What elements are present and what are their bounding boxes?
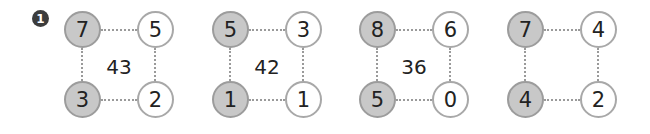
- circle-top-right: 4: [580, 11, 617, 48]
- circle-top-left: 5: [212, 11, 249, 48]
- number-square-4: 7 4 4 2: [507, 0, 627, 134]
- circle-bottom-right: 1: [285, 81, 322, 118]
- circle-top-left: 8: [359, 11, 396, 48]
- circle-top-left: 7: [64, 11, 101, 48]
- circle-bottom-right: 2: [137, 81, 174, 118]
- circle-bottom-left: 5: [359, 81, 396, 118]
- dotted-connector: [396, 29, 432, 31]
- dotted-connector: [396, 99, 432, 101]
- dotted-connector: [154, 48, 156, 81]
- dotted-connector: [101, 99, 137, 101]
- number-square-2: 5 3 1 1 42: [212, 0, 332, 134]
- circle-bottom-left: 1: [212, 81, 249, 118]
- circle-bottom-right: 0: [432, 81, 469, 118]
- dotted-connector: [302, 48, 304, 81]
- number-square-3: 8 6 5 0 36: [359, 0, 479, 134]
- dotted-connector: [524, 48, 526, 81]
- center-number: 36: [396, 55, 432, 79]
- center-number: 43: [101, 55, 137, 79]
- dotted-connector: [249, 29, 285, 31]
- dotted-connector: [229, 48, 231, 81]
- dotted-connector: [249, 99, 285, 101]
- problem-number-badge: 1: [32, 10, 49, 27]
- circle-top-right: 5: [137, 11, 174, 48]
- number-square-1: 7 5 3 2 43: [64, 0, 184, 134]
- dotted-connector: [597, 48, 599, 81]
- dotted-connector: [449, 48, 451, 81]
- circle-bottom-left: 3: [64, 81, 101, 118]
- dotted-connector: [101, 29, 137, 31]
- dotted-connector: [376, 48, 378, 81]
- dotted-connector: [544, 29, 580, 31]
- circle-bottom-right: 2: [580, 81, 617, 118]
- dotted-connector: [544, 99, 580, 101]
- circle-bottom-left: 4: [507, 81, 544, 118]
- circle-top-left: 7: [507, 11, 544, 48]
- circle-top-right: 3: [285, 11, 322, 48]
- center-number: 42: [249, 55, 285, 79]
- dotted-connector: [81, 48, 83, 81]
- circle-top-right: 6: [432, 11, 469, 48]
